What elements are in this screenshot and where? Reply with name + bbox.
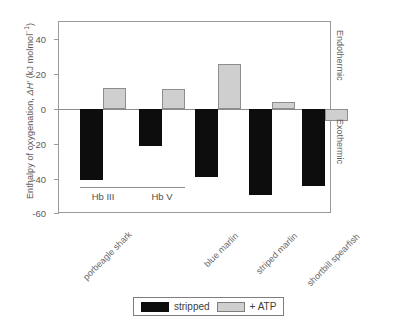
legend-swatch-stripped xyxy=(141,302,169,312)
annotation-exothermic: Exothermic xyxy=(335,119,345,164)
category-label-striped-marlin: striped marlin xyxy=(254,231,299,276)
y-axis-title-units-open: (kJ mol xyxy=(25,49,35,81)
y-axis-title-units-close: ) xyxy=(25,23,35,26)
hb-group-label-hb5: Hb V xyxy=(151,191,172,202)
hb-group-label-hb3: Hb III xyxy=(92,191,115,202)
bar-stripped-hb3 xyxy=(80,109,103,180)
y-tick-label-40: 40 xyxy=(35,34,46,45)
legend-swatch-atp xyxy=(217,302,245,312)
y-tick-mark-40: 40 xyxy=(54,39,59,40)
y-tick-label-0: 0 xyxy=(41,104,46,115)
y-tick-label-minus-40: -40 xyxy=(32,174,46,185)
plot-inner: 40 20 0 -20 -40 -60 xyxy=(59,22,330,212)
legend-item-stripped: stripped xyxy=(141,301,210,312)
annotation-endothermic: Endothermic xyxy=(335,30,345,81)
bar-atp-hb5 xyxy=(162,89,185,109)
chart-figure: Enthalpy of oxygenation, ΔH' (kJ molmol−… xyxy=(0,0,396,326)
y-tick-mark-20: 20 xyxy=(54,74,59,75)
category-label-blue-marlin: blue marlin xyxy=(202,231,240,269)
y-tick-label-minus-60: -60 xyxy=(32,208,46,219)
y-tick-mark-minus-60: -60 xyxy=(54,213,59,214)
category-label-shortbill-spearfish: shortbill spearfish xyxy=(305,231,362,288)
bar-atp-blue-marlin xyxy=(218,64,241,109)
legend-label-stripped: stripped xyxy=(174,301,210,312)
hb-group-rule xyxy=(80,187,185,188)
category-label-porbeagle-shark: porbeagle shark xyxy=(81,229,134,282)
y-tick-label-minus-20: -20 xyxy=(32,139,46,150)
y-tick-mark-minus-20: -20 xyxy=(54,144,59,145)
bar-atp-hb3 xyxy=(103,88,126,109)
plot-area: 40 20 0 -20 -40 -60 xyxy=(58,21,331,213)
bar-atp-striped-marlin xyxy=(272,102,295,109)
y-axis-title-symbol: ΔH' xyxy=(25,81,35,96)
bar-stripped-striped-marlin xyxy=(249,109,272,195)
legend-label-atp: + ATP xyxy=(250,301,277,312)
y-axis-title-units-exponent: −1 xyxy=(23,26,30,34)
chart-legend: stripped + ATP xyxy=(133,297,284,316)
legend-item-atp: + ATP xyxy=(217,301,277,312)
bar-stripped-hb5 xyxy=(139,109,162,146)
bar-stripped-blue-marlin xyxy=(195,109,218,177)
y-tick-mark-minus-40: -40 xyxy=(54,179,59,180)
y-tick-label-20: 20 xyxy=(35,69,46,80)
bar-stripped-shortbill-spearfish xyxy=(302,109,325,186)
